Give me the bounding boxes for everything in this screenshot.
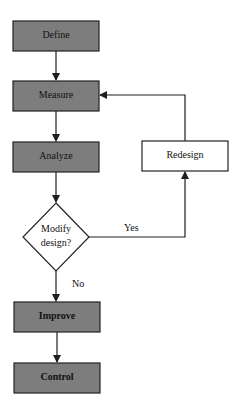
node-improve-label: Improve: [39, 310, 76, 321]
node-decision-label-line2: design?: [41, 237, 72, 248]
node-define: Define: [13, 21, 99, 51]
edge-label-no: No: [72, 278, 84, 289]
node-decision-label-line1: Modify: [41, 223, 71, 234]
node-analyze: Analyze: [13, 142, 99, 172]
node-decision: Modify design?: [23, 203, 89, 271]
edge-label-yes: Yes: [124, 222, 139, 233]
node-redesign-label: Redesign: [166, 149, 203, 160]
node-improve: Improve: [14, 302, 100, 332]
node-control-label: Control: [40, 371, 73, 382]
node-analyze-label: Analyze: [39, 150, 73, 161]
node-measure-label: Measure: [39, 89, 74, 100]
node-define-label: Define: [42, 29, 70, 40]
node-control: Control: [14, 363, 100, 393]
node-measure: Measure: [13, 81, 99, 111]
flowchart: Define Measure Analyze Modify design? Re…: [0, 0, 243, 414]
edge-redesign-measure: [100, 95, 185, 141]
node-redesign: Redesign: [142, 141, 228, 171]
